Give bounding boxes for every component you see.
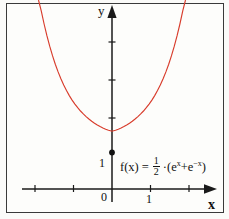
formula-lhs: f(x) — [120, 160, 139, 174]
y-axis-label: y — [98, 4, 105, 17]
vertex-point-marker — [109, 150, 115, 156]
fraction-denominator: 2 — [153, 167, 160, 177]
formula-fraction-half: 12 — [153, 156, 160, 177]
formula-term2-exponent: −x — [193, 159, 202, 168]
x-axis-arrowhead — [204, 184, 217, 194]
formula-close-paren: ) — [202, 160, 206, 174]
formula-equals: = — [142, 160, 149, 174]
function-formula: f(x)=12·(ex+e−x) — [120, 156, 206, 177]
figure-container: y x 0 1 1 f(x)=12·(ex+e−x) — [0, 0, 229, 219]
x-tick-label-1: 1 — [146, 193, 152, 205]
x-axis-label: x — [208, 198, 215, 212]
y-axis-arrowhead — [107, 5, 116, 18]
plot-canvas — [0, 0, 229, 219]
y-tick-label-1: 1 — [99, 157, 105, 169]
formula-plus: + — [181, 160, 188, 174]
origin-label: 0 — [101, 191, 107, 203]
